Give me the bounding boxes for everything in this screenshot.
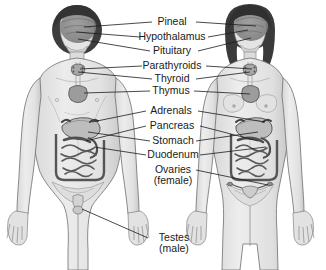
label-thymus: Thymus [149,85,193,96]
label-thyroid-text: Thyroid [150,73,194,84]
label-thyroid: Thyroid [150,73,194,84]
label-hypothalamus-text: Hypothalamus [130,31,214,42]
label-testes-subtext: (male) [148,243,200,254]
label-pancreas: Pancreas [144,120,200,131]
label-pancreas-text: Pancreas [144,120,200,131]
label-stomach-text: Stomach [147,135,199,146]
label-hypothalamus: Hypothalamus [130,31,214,42]
label-adrenals: Adrenals [145,105,197,116]
endocrine-diagram: Pineal Hypothalamus Pituitary Parathyroi… [0,0,326,270]
label-adrenals-text: Adrenals [145,105,197,116]
label-pituitary: Pituitary [146,45,198,56]
label-pineal-text: Pineal [149,16,195,27]
label-ovaries: Ovaries (female) [144,164,202,186]
label-duodenum: Duodenum [143,149,203,160]
label-thymus-text: Thymus [149,85,193,96]
label-testes: Testes (male) [148,232,200,254]
label-parathyroids: Parathyroids [135,60,209,71]
label-duodenum-text: Duodenum [143,149,203,160]
label-stomach: Stomach [147,135,199,146]
label-pituitary-text: Pituitary [146,45,198,56]
label-parathyroids-text: Parathyroids [135,60,209,71]
label-pineal: Pineal [149,16,195,27]
female-figure-art [186,4,314,270]
label-ovaries-subtext: (female) [144,175,202,186]
